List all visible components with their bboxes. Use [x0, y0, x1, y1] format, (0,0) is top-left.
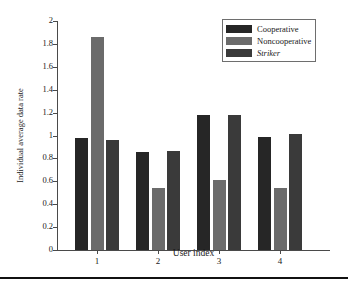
y-tick-label: 0.2 — [42, 220, 53, 233]
bar — [167, 151, 180, 250]
y-tick-mark — [53, 113, 57, 114]
bar — [152, 188, 165, 250]
y-tick-label: 0.8 — [42, 151, 53, 164]
y-tick-label: 0.4 — [42, 197, 53, 210]
bar — [136, 152, 149, 250]
legend-item: Noncooperative — [226, 35, 311, 46]
y-axis-line — [57, 21, 58, 250]
legend-swatch — [226, 37, 252, 45]
x-axis-title: User index — [57, 248, 330, 258]
bar — [213, 180, 226, 250]
chart-figure: Individual average data rate 00.20.40.60… — [0, 0, 348, 292]
bar — [106, 140, 119, 250]
y-axis-title-holder: Individual average data rate — [0, 21, 30, 250]
y-tick-mark — [53, 21, 57, 22]
legend-item: Cooperative — [226, 23, 311, 34]
y-tick-label: 2 — [49, 14, 53, 27]
legend-label: Striker — [257, 48, 280, 58]
legend-swatch — [226, 49, 252, 57]
y-tick-label: 1.8 — [42, 37, 53, 50]
bar — [289, 134, 302, 250]
bar — [91, 37, 104, 250]
bar — [197, 115, 210, 250]
legend-swatch — [226, 25, 252, 33]
bar — [228, 115, 241, 250]
y-tick-label: 0.6 — [42, 174, 53, 187]
bar — [274, 188, 287, 250]
legend-label: Noncooperative — [257, 36, 311, 46]
y-tick-mark — [53, 227, 57, 228]
y-tick-mark — [53, 136, 57, 137]
bar — [258, 137, 271, 250]
chart-legend: CooperativeNoncooperativeStriker — [222, 19, 316, 62]
y-tick-label: 1 — [49, 129, 53, 142]
y-tick-mark — [53, 90, 57, 91]
y-tick-mark — [53, 204, 57, 205]
y-tick-mark — [53, 44, 57, 45]
y-tick-label: 1.4 — [42, 83, 53, 96]
footer-divider — [0, 277, 348, 279]
bar — [75, 138, 88, 250]
legend-label: Cooperative — [257, 24, 299, 34]
legend-item: Striker — [226, 47, 311, 58]
y-tick-label: 0 — [49, 243, 53, 256]
y-tick-mark — [53, 181, 57, 182]
y-tick-mark — [53, 67, 57, 68]
y-tick-label: 1.6 — [42, 60, 53, 73]
y-tick-mark — [53, 158, 57, 159]
y-tick-label: 1.2 — [42, 106, 53, 119]
y-axis-title: Individual average data rate — [14, 21, 26, 250]
